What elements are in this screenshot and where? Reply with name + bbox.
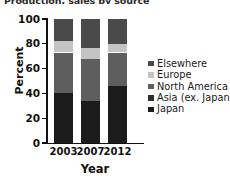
legend-label: North America (157, 82, 228, 92)
bar-segment-2003-elsewhere (54, 19, 73, 41)
bar-2007 (81, 19, 100, 143)
plot-area (47, 19, 137, 143)
bar-segment-2007-japan (81, 101, 100, 143)
bar-segment-2003-north-america (54, 53, 73, 94)
bar-2012 (108, 19, 127, 143)
legend-item: Elsewhere (148, 58, 230, 69)
bar-segment-2012-north-america (108, 53, 127, 86)
bar-segment-2012-europe (108, 44, 127, 53)
bar-segment-2007-north-america (81, 59, 100, 101)
bar-2003 (54, 19, 73, 143)
bar-segment-2012-japan (108, 86, 127, 143)
legend-label: Japan (157, 104, 184, 114)
y-tick-label-100: 100 (4, 14, 40, 25)
chart-legend: ElsewhereEuropeNorth AmericaAsia (ex. Ja… (148, 58, 230, 115)
legend-label: Asia (ex. Japan) (157, 93, 230, 103)
legend-swatch-icon (148, 84, 154, 90)
legend-swatch-icon (148, 95, 154, 101)
bar-segment-2007-elsewhere (81, 19, 100, 48)
legend-label: Elsewhere (157, 59, 207, 69)
legend-item: North America (148, 81, 230, 92)
bar-segment-2007-europe (81, 48, 100, 59)
bar-segment-2003-europe (54, 41, 73, 52)
chart-title: Production, sales by source (4, 0, 154, 4)
y-tick-label-0: 0 (4, 138, 40, 149)
legend-item: Europe (148, 69, 230, 80)
legend-label: Europe (157, 70, 191, 80)
legend-swatch-icon (148, 61, 154, 67)
chart-figure: Production, sales by source 020406080100… (0, 0, 230, 180)
legend-item: Asia (ex. Japan) (148, 92, 230, 103)
legend-swatch-icon (148, 72, 154, 78)
legend-swatch-icon (148, 107, 154, 113)
bar-segment-2003-japan (54, 93, 73, 143)
x-tick-label-2012: 2012 (101, 146, 135, 157)
legend-item: Japan (148, 104, 230, 115)
y-axis-label: Percent (13, 36, 26, 106)
x-axis-label: Year (46, 162, 144, 176)
bar-segment-2012-elsewhere (108, 19, 127, 44)
y-tick-label-20: 20 (4, 113, 40, 124)
